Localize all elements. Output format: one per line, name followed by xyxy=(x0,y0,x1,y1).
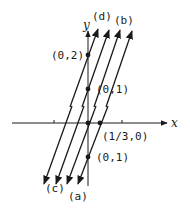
point-0-1-upper xyxy=(86,87,91,92)
label-point-0-2: (0,2) xyxy=(51,49,84,62)
label-line-d: (d) xyxy=(92,10,112,23)
y-axis-label: y xyxy=(82,18,90,32)
label-point-0-1-lower: (0,1) xyxy=(96,151,129,164)
point-one-third-0 xyxy=(98,121,103,126)
label-point-one-third-0: (1/3,0) xyxy=(102,130,148,143)
label-line-a: (a) xyxy=(68,190,88,203)
line-a-lower xyxy=(67,106,96,184)
point-origin xyxy=(86,121,91,126)
line-d-lower xyxy=(56,106,84,184)
label-line-b: (b) xyxy=(114,14,134,27)
line-c-upper xyxy=(70,29,98,107)
graph-diagram: x y ( xyxy=(0,0,190,214)
line-b-lower xyxy=(78,106,108,184)
line-c xyxy=(44,106,72,184)
x-axis: x xyxy=(12,116,178,130)
point-0-2 xyxy=(86,53,91,58)
label-point-0-1-upper: (0,1) xyxy=(96,83,129,96)
x-axis-label: x xyxy=(171,116,178,130)
point-0-1-lower xyxy=(86,155,91,160)
label-line-c: (c) xyxy=(45,182,65,195)
